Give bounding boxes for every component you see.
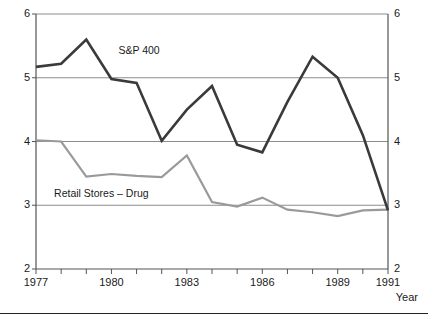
footer-divider <box>0 313 428 314</box>
y-axis-label-left-6: 6 <box>8 8 30 19</box>
x-axis-label-1977: 1977 <box>12 277 60 288</box>
y-axis-label-left-2: 2 <box>8 263 30 274</box>
series-line-s-p-400 <box>36 40 388 211</box>
series-line-retail-stores-drug <box>36 140 388 216</box>
series-annotation-retail-stores-drug: Retail Stores – Drug <box>54 188 149 199</box>
x-axis-title: Year <box>396 292 418 303</box>
y-axis-label-right-4: 4 <box>394 136 416 147</box>
x-axis-label-1980: 1980 <box>87 277 135 288</box>
chart-container: 2233445566197719801983198619891991S&P 40… <box>0 0 428 317</box>
y-axis-label-right-3: 3 <box>394 199 416 210</box>
y-axis-label-right-2: 2 <box>394 263 416 274</box>
axis-ticks <box>32 14 388 274</box>
x-axis-label-1991: 1991 <box>364 277 412 288</box>
y-axis-label-left-4: 4 <box>8 136 30 147</box>
y-axis-label-left-3: 3 <box>8 199 30 210</box>
x-axis-label-1986: 1986 <box>238 277 286 288</box>
line-chart-plot <box>0 0 428 317</box>
y-axis-label-right-6: 6 <box>394 8 416 19</box>
y-axis-label-right-5: 5 <box>394 72 416 83</box>
series-annotation-s-p-400: S&P 400 <box>118 45 159 56</box>
x-axis-label-1983: 1983 <box>163 277 211 288</box>
y-axis-label-left-5: 5 <box>8 72 30 83</box>
x-axis-label-1989: 1989 <box>314 277 362 288</box>
